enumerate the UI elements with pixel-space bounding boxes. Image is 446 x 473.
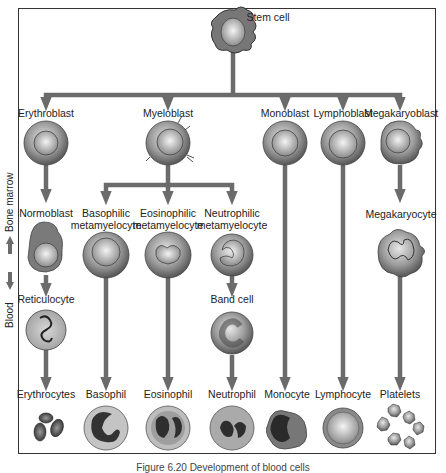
label-eosinophilic-line1: Eosinophilic	[140, 207, 196, 219]
band-cell-cell	[211, 312, 253, 354]
platelets-cells	[377, 404, 424, 449]
megakaryocyte-cell	[378, 229, 425, 277]
neutrophil-cell	[210, 406, 254, 450]
monoblast-cell	[263, 121, 307, 165]
neutrophilic-metamyelocyte-cell	[211, 234, 253, 276]
label-neutrophil: Neutrophil	[208, 388, 256, 400]
label-megakaryocyte: Megakaryocyte	[365, 208, 436, 220]
figure-caption: Figure 6.20 Development of blood cells	[0, 462, 446, 473]
arrow-down-icon	[6, 272, 14, 290]
side-label-blood: Blood	[4, 302, 15, 328]
label-eosinophil: Eosinophil	[144, 388, 192, 400]
label-basophilic-line2: metamyelocyte	[71, 219, 142, 231]
label-platelets: Platelets	[380, 388, 420, 400]
label-basophil: Basophil	[86, 388, 126, 400]
eosinophilic-metamyelocyte-cell	[145, 232, 191, 278]
label-eosinophilic-line2: metamyelocyte	[133, 219, 204, 231]
label-normoblast: Normoblast	[19, 207, 73, 219]
arrow-up-icon	[6, 236, 14, 254]
lymphoblast-cell	[321, 121, 365, 165]
side-arrows	[6, 236, 14, 290]
side-label-bone-marrow: Bone marrow	[4, 173, 15, 232]
label-stem-cell: Stem cell	[246, 11, 289, 23]
normoblast-cell	[28, 222, 63, 272]
label-reticulocyte: Reticulocyte	[17, 293, 74, 305]
label-megakaryoblast: Megakaryoblast	[364, 107, 438, 119]
reticulocyte-cell	[26, 310, 66, 350]
label-monoblast: Monoblast	[261, 107, 309, 119]
monocyte-cell	[266, 411, 306, 450]
label-neutrophilic-line2: metamyelocyte	[197, 219, 268, 231]
label-erythrocytes: Erythrocytes	[17, 388, 75, 400]
basophilic-metamyelocyte-cell	[83, 232, 129, 278]
megakaryoblast-cell	[381, 121, 422, 164]
label-monocyte: Monocyte	[264, 388, 310, 400]
label-lymphocyte: Lymphocyte	[315, 388, 371, 400]
eosinophil-cell	[146, 406, 190, 450]
label-erythroblast: Erythroblast	[18, 107, 74, 119]
label-neutrophilic-line1: Neutrophilic	[204, 207, 259, 219]
erythroblast-cell	[24, 121, 68, 165]
label-myeloblast: Myeloblast	[143, 107, 193, 119]
myeloblast-cell	[146, 116, 194, 165]
label-basophilic-line1: Basophilic	[82, 207, 130, 219]
label-band-cell: Band cell	[210, 293, 253, 305]
lymphocyte-cell	[323, 408, 363, 448]
basophil-cell	[84, 406, 128, 450]
erythrocytes-cells	[34, 413, 66, 441]
